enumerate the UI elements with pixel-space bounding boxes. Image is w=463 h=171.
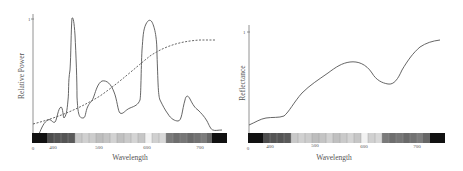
- left-color-bar: [32, 133, 227, 143]
- left-y-top-tick-label: 1: [28, 17, 31, 22]
- left-y-axis-label: Relative Power: [17, 52, 26, 99]
- left-x-tick-400: 400: [49, 145, 57, 150]
- left-x-tick-0: 0: [32, 146, 35, 151]
- right-x-axis-label: Wavelength: [316, 153, 352, 162]
- left-x-tick-500: 500: [95, 145, 103, 150]
- right-x-tick-600: 600: [360, 144, 368, 149]
- right-y-axis-label: Reflectance: [238, 65, 247, 101]
- figure: 1 Relative Power: [0, 0, 463, 171]
- right-x-tick-700: 700: [413, 144, 421, 149]
- right-reflectance-curve: [249, 40, 440, 125]
- right-x-tick-500: 500: [311, 143, 319, 148]
- right-chart: 1 Reflectance: [238, 25, 445, 162]
- left-solid-curve: [39, 18, 222, 134]
- left-x-axis-label: Wavelength: [112, 153, 148, 162]
- right-color-bar: [248, 133, 445, 143]
- right-x-tick-400: 400: [266, 144, 274, 149]
- left-x-tick-600: 600: [143, 145, 151, 150]
- left-chart: 1 Relative Power: [17, 14, 227, 162]
- right-x-tick-0: 0: [247, 146, 250, 151]
- right-y-top-tick-label: 1: [243, 30, 246, 35]
- left-x-tick-700: 700: [196, 145, 204, 150]
